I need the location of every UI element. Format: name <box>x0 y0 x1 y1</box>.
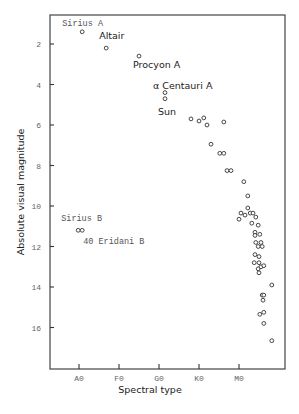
star-point <box>218 151 222 155</box>
y-tick-label: 16 <box>31 324 41 333</box>
x-tick-label: G0 <box>154 374 164 383</box>
star-point <box>225 169 229 173</box>
star-point <box>163 91 167 95</box>
star-point <box>257 255 261 259</box>
star-point <box>257 271 261 275</box>
star-point <box>202 116 206 120</box>
star-point <box>253 234 257 238</box>
x-tick-label: F0 <box>114 374 124 383</box>
star-point <box>137 54 141 58</box>
star-point <box>270 339 274 343</box>
star-point <box>262 322 266 326</box>
star-point <box>76 228 80 232</box>
star-label: α Centauri A <box>153 80 213 91</box>
x-tick-label: K0 <box>194 374 204 383</box>
star-point <box>270 283 274 287</box>
star-label: Sun <box>158 106 176 117</box>
y-tick-label: 12 <box>31 243 41 252</box>
star-point <box>239 211 243 215</box>
star-point <box>242 180 246 184</box>
star-label: Procyon A <box>133 59 181 70</box>
star-label: Altair <box>99 30 124 41</box>
star-point <box>80 228 84 232</box>
star-point <box>222 120 226 124</box>
y-axis-ticks: 246810121416 <box>31 40 54 333</box>
data-points <box>76 30 273 343</box>
star-label: Sirius B <box>61 214 102 224</box>
x-tick-label: A0 <box>74 374 84 383</box>
star-point <box>222 151 226 155</box>
star-point <box>258 312 262 316</box>
x-axis-ticks: A0F0G0K0M0 <box>74 364 244 383</box>
y-tick-label: 2 <box>36 40 41 49</box>
star-labels: Sirius AAltairProcyon Aα Centauri ASunSi… <box>61 19 213 248</box>
star-point <box>104 46 108 50</box>
star-point <box>246 194 250 198</box>
star-point <box>189 117 193 121</box>
star-point <box>259 241 263 245</box>
star-point <box>254 215 258 219</box>
y-tick-label: 4 <box>36 81 41 90</box>
star-point <box>256 245 260 249</box>
star-point <box>229 169 233 173</box>
y-tick-label: 8 <box>36 162 41 171</box>
star-label: Sirius A <box>62 19 104 29</box>
star-point <box>197 119 201 123</box>
star-point <box>209 142 213 146</box>
x-axis-title: Spectral type <box>118 384 182 395</box>
star-point <box>262 293 266 297</box>
star-point <box>257 261 261 265</box>
star-point <box>261 298 265 302</box>
star-point <box>253 253 257 257</box>
star-point <box>243 213 247 217</box>
star-point <box>254 241 258 245</box>
y-tick-label: 6 <box>36 121 41 130</box>
hr-diagram: 246810121416 A0F0G0K0M0 Sirius AAltairPr… <box>0 0 299 414</box>
star-point <box>260 245 264 249</box>
star-point <box>250 221 254 225</box>
star-point <box>163 97 167 101</box>
star-point <box>205 123 209 127</box>
y-tick-label: 10 <box>31 202 41 211</box>
star-point <box>258 232 262 236</box>
star-label: 40 Eridani B <box>83 237 144 247</box>
star-point <box>251 211 255 215</box>
star-point <box>246 206 250 210</box>
star-point <box>262 264 266 268</box>
star-point <box>262 310 266 314</box>
star-point <box>252 261 256 265</box>
star-point <box>80 30 84 34</box>
star-point <box>256 223 260 227</box>
star-point <box>237 217 241 221</box>
y-axis-title: Absolute visual magnitude <box>15 129 26 256</box>
y-tick-label: 14 <box>31 283 41 292</box>
x-tick-label: M0 <box>234 374 244 383</box>
